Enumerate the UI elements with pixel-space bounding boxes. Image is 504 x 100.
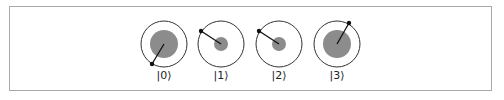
state-circle-0 bbox=[141, 21, 187, 67]
phase-dot bbox=[257, 29, 261, 33]
state-label-3: |3⟩ bbox=[317, 69, 357, 83]
state-label-2: |2⟩ bbox=[259, 69, 299, 83]
phase-dot bbox=[199, 29, 203, 33]
state-circle-1 bbox=[198, 21, 244, 67]
state-circle-2 bbox=[256, 21, 302, 67]
circle-notation-diagram bbox=[0, 0, 504, 100]
state-circle-3 bbox=[314, 21, 360, 67]
phase-dot bbox=[150, 62, 154, 66]
state-label-1: |1⟩ bbox=[201, 69, 241, 83]
state-label-0: |0⟩ bbox=[144, 69, 184, 83]
phase-dot bbox=[347, 21, 351, 25]
